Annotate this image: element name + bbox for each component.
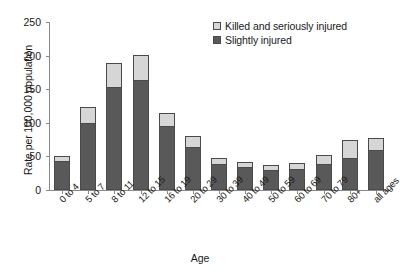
bar-stack <box>54 22 70 190</box>
bar-segment-slightly-injured <box>106 87 122 190</box>
bar-segment-killed-seriously-injured <box>80 107 96 125</box>
x-tick-mark <box>114 191 115 194</box>
bar-segment-killed-seriously-injured <box>133 55 149 82</box>
y-tick-label: 100 <box>11 118 41 128</box>
bar-segment-killed-seriously-injured <box>211 158 227 165</box>
bar-segment-killed-seriously-injured <box>289 163 305 169</box>
bar-stack <box>133 22 149 190</box>
legend-swatch-icon <box>213 22 221 30</box>
x-tick-mark <box>62 191 63 194</box>
y-tick-label: 200 <box>11 51 41 61</box>
legend-label: Slightly injured <box>225 35 292 46</box>
bar-segment-slightly-injured <box>133 80 149 190</box>
x-tick-mark <box>271 191 272 194</box>
bar-stack <box>185 22 201 190</box>
bar-stack <box>159 22 175 190</box>
bar-stack <box>106 22 122 190</box>
x-tick-mark <box>376 191 377 194</box>
bar-segment-killed-seriously-injured <box>106 63 122 88</box>
bar-segment-killed-seriously-injured <box>159 113 175 127</box>
legend-item: Slightly injured <box>213 34 347 46</box>
bar-stack <box>80 22 96 190</box>
legend: Killed and seriously injuredSlightly inj… <box>213 20 347 48</box>
bar-chart: Rate per 100,000 population 050100150200… <box>0 0 400 275</box>
legend-swatch-icon <box>213 36 221 44</box>
bar-segment-slightly-injured <box>80 123 96 190</box>
x-tick-mark <box>245 191 246 194</box>
x-tick-mark <box>141 191 142 194</box>
x-tick-mark <box>297 191 298 194</box>
bar-segment-slightly-injured <box>368 150 384 190</box>
y-tick-label: 250 <box>11 17 41 27</box>
x-tick-mark <box>350 191 351 194</box>
bar-segment-killed-seriously-injured <box>316 155 332 165</box>
y-tick-label: 150 <box>11 84 41 94</box>
x-tick-mark <box>219 191 220 194</box>
y-tick-mark <box>46 190 49 191</box>
y-tick-label: 0 <box>11 185 41 195</box>
bar-segment-killed-seriously-injured <box>237 162 253 168</box>
x-tick-mark <box>193 191 194 194</box>
bar-segment-killed-seriously-injured <box>368 138 384 151</box>
bar-segment-killed-seriously-injured <box>54 156 70 162</box>
legend-item: Killed and seriously injured <box>213 20 347 32</box>
y-tick-label: 50 <box>11 151 41 161</box>
x-tick-mark <box>167 191 168 194</box>
x-axis-title: Age <box>150 252 250 264</box>
bar-stack <box>368 22 384 190</box>
x-tick-mark <box>88 191 89 194</box>
bar-segment-killed-seriously-injured <box>342 140 358 160</box>
y-axis-title: Rate per 100,000 population <box>22 20 34 200</box>
legend-label: Killed and seriously injured <box>225 21 347 32</box>
x-tick-mark <box>324 191 325 194</box>
bar-segment-killed-seriously-injured <box>185 136 201 148</box>
bar-segment-killed-seriously-injured <box>263 165 279 171</box>
